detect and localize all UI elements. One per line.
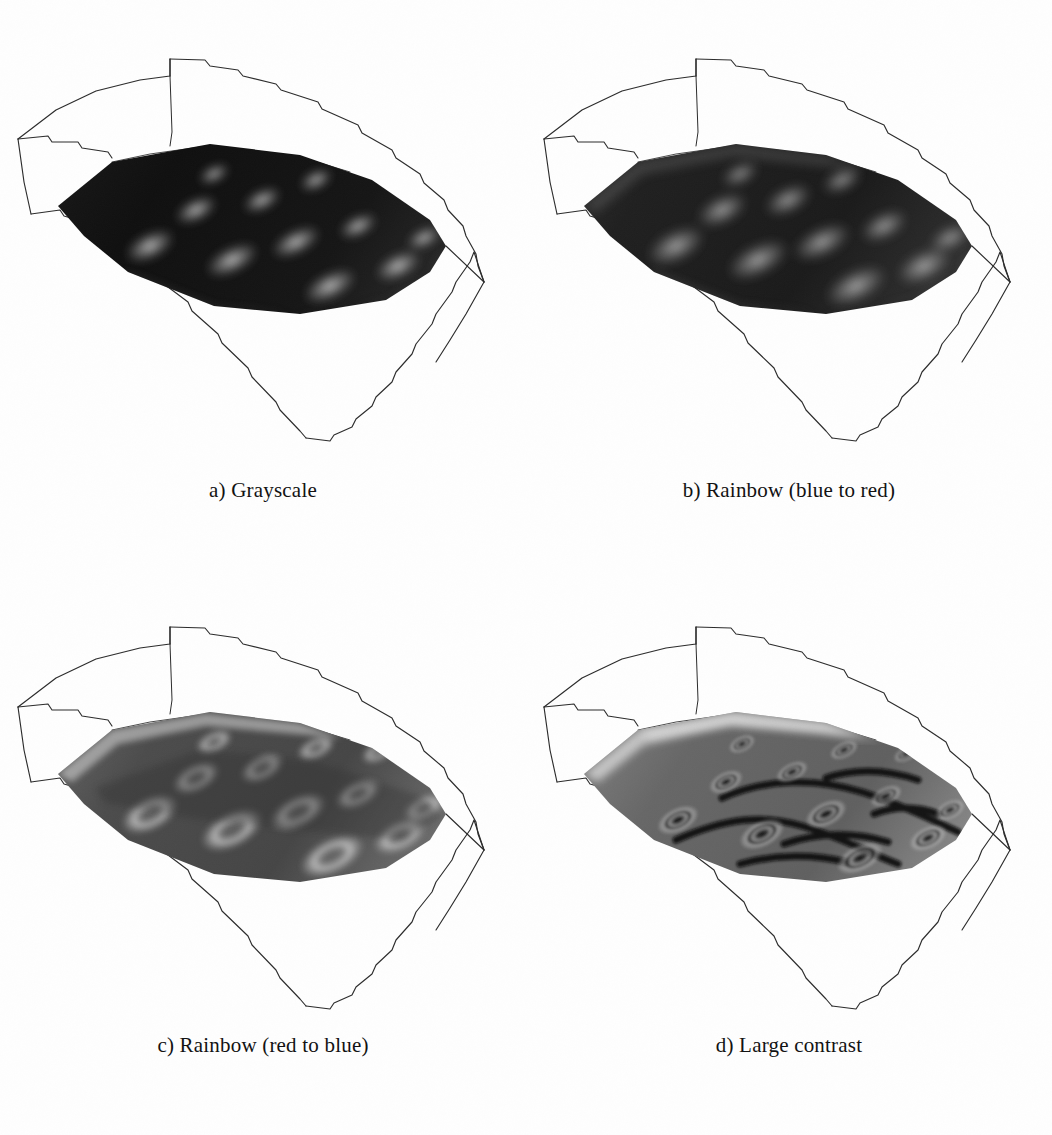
caption-panel-b: b) Rainbow (blue to red) [526,478,1052,503]
caption-panel-a: a) Grayscale [0,478,526,503]
surface-plot-c [0,582,526,1012]
figure-root: a) Grayscale [0,0,1052,1135]
caption-panel-d: d) Large contrast [526,1033,1052,1058]
panel-grayscale: a) Grayscale [0,0,526,567]
surface-plot-d [526,582,1052,1012]
surface-plot-b [526,14,1052,444]
panel-grid: a) Grayscale [0,0,1052,1135]
panel-rainbow-red-to-blue: c) Rainbow (red to blue) [0,568,526,1135]
panel-large-contrast: d) Large contrast [526,568,1052,1135]
surface-mesh-b [526,14,1052,444]
surface-mesh-c [0,582,526,1012]
surface-plot-a [0,14,526,444]
surface-mesh-d [526,582,1052,1012]
panel-rainbow-blue-to-red: b) Rainbow (blue to red) [526,0,1052,567]
caption-panel-c: c) Rainbow (red to blue) [0,1033,526,1058]
surface-mesh-a [0,14,526,444]
